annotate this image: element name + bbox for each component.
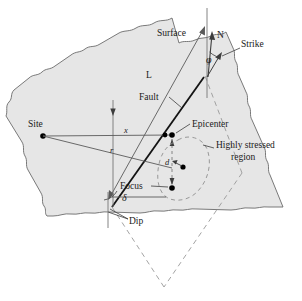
strike-label: Strike xyxy=(241,39,264,49)
epicenter-marker-secondary xyxy=(163,133,168,138)
epicenter-marker xyxy=(169,132,175,138)
highly-stressed-region-label-line1: Highly stressed xyxy=(216,140,275,150)
north-label: N xyxy=(217,30,224,40)
epicenter-label: Epicenter xyxy=(192,119,229,129)
fault-geometry-figure: N φ Strike Surface L Fault xyxy=(0,0,302,301)
fault-length-label: L xyxy=(146,70,152,80)
dip-label: Dip xyxy=(129,216,144,226)
dip-angle-label: δ xyxy=(122,192,127,203)
surface-label: Surface xyxy=(157,28,186,38)
site-label: Site xyxy=(28,119,43,129)
phi-angle-label: φ xyxy=(206,54,212,65)
highly-stressed-region-label-line2: region xyxy=(231,152,256,162)
distance-x-label: x xyxy=(123,125,128,135)
fault-label: Fault xyxy=(139,92,159,102)
focus-marker xyxy=(169,185,175,191)
focus-label: Focus xyxy=(120,181,143,191)
fault-length-arrowhead-top xyxy=(199,26,205,36)
fault-geometry-svg: N φ Strike Surface L Fault xyxy=(0,0,302,301)
